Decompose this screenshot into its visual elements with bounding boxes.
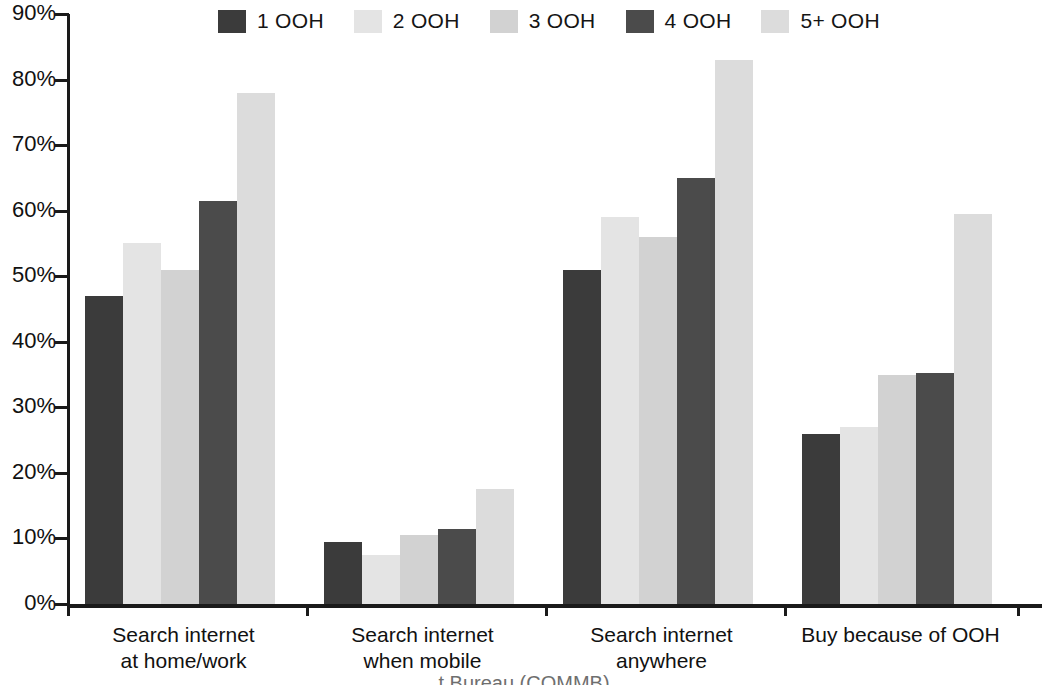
group-separator	[545, 604, 548, 616]
bar	[476, 489, 514, 604]
y-axis-line	[67, 14, 70, 607]
bar	[677, 178, 715, 604]
bar	[878, 375, 916, 604]
y-axis-tick-label: 30%	[0, 393, 56, 419]
group-separator	[306, 604, 309, 616]
y-axis-tick-label: 40%	[0, 328, 56, 354]
y-axis-tick-label: 60%	[0, 197, 56, 223]
bar-chart: 1 OOH2 OOH3 OOH4 OOH5+ OOH 90%80%70%60%5…	[0, 0, 1048, 685]
bar	[161, 270, 199, 604]
x-axis-category-label: Buy because of OOH	[784, 622, 1017, 648]
group-separator	[1017, 604, 1020, 616]
x-axis-category-label: Search internet at home/work	[67, 622, 300, 674]
bar	[438, 529, 476, 604]
bar	[802, 434, 840, 604]
bar	[199, 201, 237, 604]
y-axis-tick-label: 50%	[0, 262, 56, 288]
y-axis-tick	[55, 406, 69, 409]
bar	[362, 555, 400, 604]
y-axis-tick-label: 70%	[0, 131, 56, 157]
y-axis-tick	[55, 472, 69, 475]
bar	[400, 535, 438, 604]
y-axis-tick	[55, 13, 69, 16]
y-axis-tick-label: 10%	[0, 524, 56, 550]
y-axis-tick	[55, 537, 69, 540]
x-axis-category-label: Search internet when mobile	[306, 622, 539, 674]
bar	[324, 542, 362, 604]
y-axis-tick-label: 20%	[0, 459, 56, 485]
y-axis-tick	[55, 341, 69, 344]
x-axis-category-label: Search internet anywhere	[545, 622, 778, 674]
y-axis-tick	[55, 275, 69, 278]
y-axis-tick-label: 90%	[0, 0, 56, 26]
bar	[954, 214, 992, 604]
plot-area	[67, 14, 1042, 607]
y-axis-tick	[55, 144, 69, 147]
x-axis-line	[67, 604, 1042, 608]
group-separator	[67, 604, 70, 616]
bar	[601, 217, 639, 604]
bar	[639, 237, 677, 604]
source-caption: t Bureau (COMMB)	[0, 672, 1048, 685]
y-axis-tick	[55, 210, 69, 213]
bar	[563, 270, 601, 604]
bar	[85, 296, 123, 604]
y-axis-tick-label: 0%	[0, 590, 56, 616]
bar	[123, 243, 161, 604]
bar	[840, 427, 878, 604]
y-axis-tick	[55, 79, 69, 82]
bar	[916, 373, 954, 604]
bar	[237, 93, 275, 604]
group-separator	[784, 604, 787, 616]
y-axis-tick-label: 80%	[0, 66, 56, 92]
bar	[715, 60, 753, 604]
